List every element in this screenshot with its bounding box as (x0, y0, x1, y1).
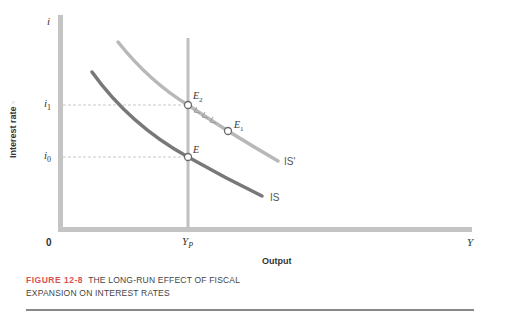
figure-number: FIGURE 12-8 (26, 275, 83, 285)
x-axis (58, 227, 472, 232)
chart-canvas (0, 0, 505, 319)
x-axis-symbol: Y (467, 236, 473, 248)
x-axis-title: Output (262, 256, 292, 266)
y-axis (58, 15, 63, 232)
origin-label: 0 (46, 237, 52, 248)
caption-divider (26, 309, 474, 311)
point-e2-marker (185, 102, 192, 109)
label-e1: E1 (234, 119, 244, 133)
point-e-marker (185, 154, 192, 161)
figure-caption: FIGURE 12-8 THE LONG-RUN EFFECT OF FISCA… (26, 274, 240, 300)
tick-yp: YP (182, 235, 193, 250)
y-axis-title: Interest rate ◦ (8, 101, 18, 158)
label-is-prime: IS' (284, 156, 295, 167)
is-curve (92, 72, 262, 196)
label-e: E (193, 144, 199, 155)
point-e1-marker (225, 128, 232, 135)
y-axis-symbol: i (47, 15, 50, 27)
tick-i1: i1 (44, 97, 51, 112)
tick-i0: i0 (44, 149, 51, 164)
label-is: IS (270, 192, 279, 203)
label-e2: E2 (193, 90, 203, 104)
